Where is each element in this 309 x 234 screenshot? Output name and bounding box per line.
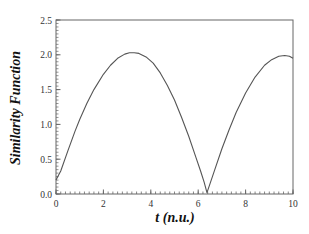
y-tick-label: 1.5 [40, 85, 52, 95]
x-tick-label: 6 [196, 199, 201, 209]
x-tick-label: 2 [101, 199, 106, 209]
x-tick-label: 4 [148, 199, 153, 209]
x-axis-ticks: 0246810 [54, 190, 298, 210]
y-axis-ticks: 0.00.51.01.52.02.5 [40, 16, 60, 200]
x-tick-label: 0 [54, 199, 59, 209]
x-tick-label: 10 [288, 199, 298, 209]
y-tick-label: 0.5 [40, 155, 52, 165]
x-tick-label: 8 [243, 199, 248, 209]
data-line [56, 53, 293, 193]
x-axis-title: t (n.u.) [155, 210, 194, 226]
y-tick-label: 1.0 [40, 120, 52, 130]
plot-frame [56, 20, 293, 194]
similarity-function-chart: 0246810 0.00.51.01.52.02.5 t (n.u.) Simi… [0, 0, 309, 234]
y-tick-label: 2.5 [40, 16, 52, 26]
y-tick-label: 0.0 [40, 190, 52, 200]
y-tick-label: 2.0 [40, 50, 52, 60]
y-axis-title: Similarity Function [8, 51, 23, 165]
